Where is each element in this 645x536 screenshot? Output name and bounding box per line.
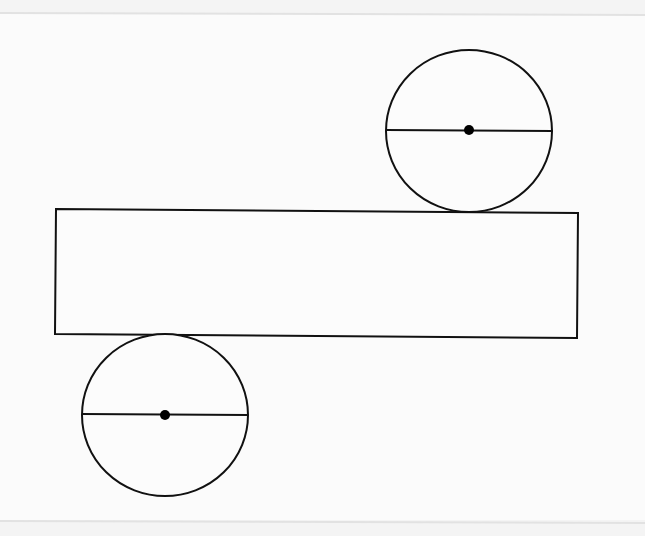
bottom-base-circle — [82, 334, 248, 496]
lateral-surface-rectangle — [55, 209, 578, 338]
cylinder-net-diagram — [0, 0, 645, 536]
center-dot — [464, 125, 474, 135]
center-dot — [160, 410, 170, 420]
top-base-circle — [386, 50, 553, 212]
paper-bottom-edge — [0, 521, 645, 523]
